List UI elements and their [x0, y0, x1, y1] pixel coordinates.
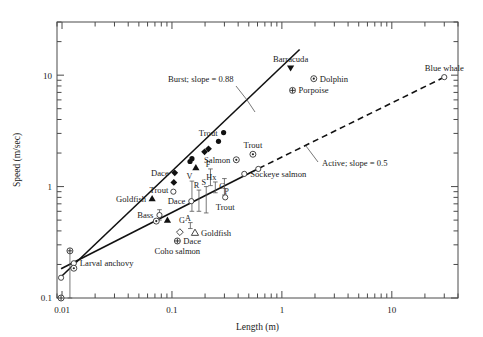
code-label: Hx: [206, 173, 216, 182]
data-point-marker: [187, 159, 192, 164]
data-point-label: Barracuda: [273, 54, 308, 64]
data-point-marker: [58, 275, 63, 280]
active-fit-line-dashed: [259, 77, 444, 168]
data-point-marker-dot: [252, 153, 254, 155]
data-point-marker-dot: [235, 159, 237, 161]
code-label: A: [185, 214, 191, 223]
data-point-marker: [242, 171, 247, 176]
y-tick-label: 10: [43, 71, 53, 81]
x-tick-label: 0.01: [54, 305, 70, 315]
data-point-marker: [256, 166, 261, 171]
x-tick-label: 1: [280, 305, 285, 315]
data-point-label: Dolphin: [320, 74, 349, 84]
data-point-marker: [171, 189, 176, 194]
y-tick-label: 0.1: [41, 293, 52, 303]
plot-frame: [57, 22, 458, 298]
code-label: V: [187, 172, 193, 181]
data-point-label: Dace: [183, 236, 201, 246]
data-point-marker: [191, 229, 198, 235]
x-axis-title: Length (m): [236, 322, 279, 333]
data-point-label: Trout: [244, 140, 263, 150]
data-point-marker: [192, 164, 199, 170]
code-label: R: [194, 181, 200, 190]
y-axis-title: Speed (m/sec): [12, 133, 23, 187]
data-point-marker: [221, 130, 226, 135]
data-point-label: Larval anchovy: [80, 258, 134, 268]
data-point-marker-dot: [73, 267, 75, 269]
data-point-label: Trout: [216, 202, 235, 212]
data-point-label: Bass: [137, 210, 154, 220]
code-label: P: [224, 187, 229, 196]
data-point-marker-dot: [313, 78, 315, 80]
data-point-marker: [164, 217, 171, 223]
chart-figure: 0.010.11100.1110Length (m)Speed (m/sec)B…: [0, 0, 483, 337]
code-label: F: [206, 160, 211, 169]
burst-slope-label: Burst; slope = 0.88: [168, 74, 233, 84]
data-point-label: Dace: [168, 196, 186, 206]
data-point-marker: [176, 229, 183, 236]
x-tick-label: 10: [387, 305, 397, 315]
data-point-label: Trout: [150, 185, 169, 195]
active-slope-label: Active; slope = 0.5: [322, 158, 387, 168]
data-point-marker: [157, 212, 162, 217]
data-point-marker: [442, 75, 447, 80]
data-point-marker-dot: [155, 220, 157, 222]
data-point-label: Porpoise: [299, 85, 329, 95]
data-point-label: Goldfish: [116, 194, 147, 204]
data-point-label: Blue whale: [425, 63, 464, 73]
data-point-label: Coho salmon: [155, 246, 201, 256]
swimming-speed-chart-svg: 0.010.11100.1110Length (m)Speed (m/sec)B…: [0, 0, 483, 337]
data-point-label: Goldfish: [201, 228, 232, 238]
data-point-marker: [189, 199, 194, 204]
data-point-label: Trout: [199, 128, 218, 138]
data-point-marker: [149, 195, 156, 201]
x-tick-label: 0.1: [166, 305, 177, 315]
y-tick-label: 1: [48, 182, 53, 192]
data-point-marker: [287, 65, 294, 71]
data-point-label: Dace: [151, 168, 169, 178]
data-point-marker: [216, 139, 221, 144]
active-leader-line: [306, 146, 318, 162]
data-point-marker: [170, 179, 177, 186]
